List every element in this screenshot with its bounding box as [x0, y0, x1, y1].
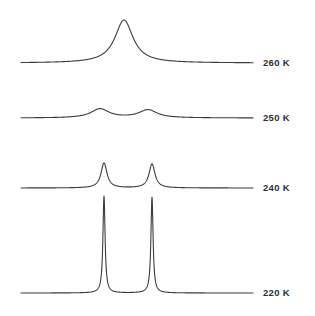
trace-group-240k — [21, 163, 253, 188]
trace-250k — [21, 109, 253, 118]
temperature-label-260k: 260 K — [263, 58, 290, 68]
temperature-label-220k: 220 K — [263, 288, 290, 298]
spectra-figure: 260 K 250 K 240 K 220 K — [0, 0, 315, 316]
trace-group-220k — [21, 196, 253, 293]
temperature-label-250k: 250 K — [263, 113, 290, 123]
trace-240k — [21, 163, 253, 188]
temperature-label-240k: 240 K — [263, 183, 290, 193]
spectra-plot — [0, 0, 315, 316]
trace-group-260k — [21, 20, 253, 63]
trace-220k — [21, 196, 253, 293]
trace-260k — [21, 20, 253, 63]
trace-group-250k — [21, 109, 253, 118]
